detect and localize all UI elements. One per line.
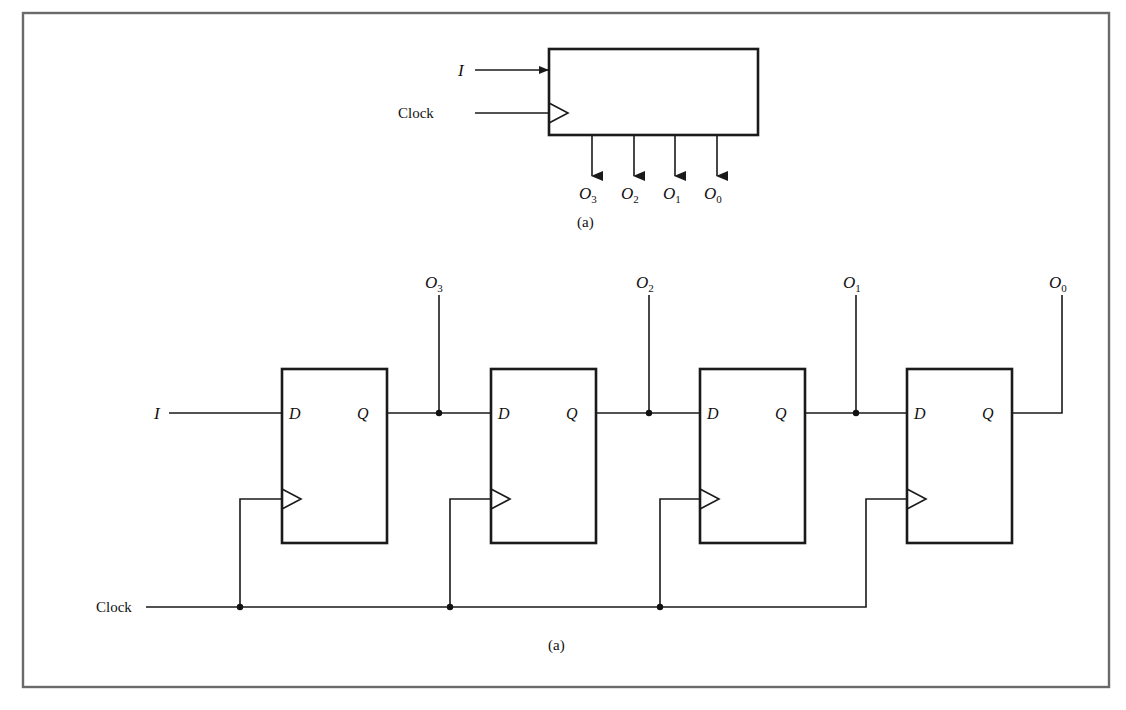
chain-input-label: I	[153, 404, 161, 423]
block-output-label-o2: O2	[621, 184, 639, 205]
clock-tap-ff2	[450, 499, 491, 607]
q-output-label: Q	[357, 405, 369, 422]
d-input-label: D	[913, 405, 926, 422]
flip-flop-chain: I D Q D Q D Q D Q	[96, 273, 1067, 654]
q-output-label: Q	[775, 405, 787, 422]
clock-tap-ff3	[660, 499, 700, 607]
junction-dot	[447, 604, 453, 610]
bottom-caption: (a)	[548, 637, 565, 654]
block-output-label-o0: O0	[704, 184, 722, 205]
flip-flop-box	[907, 369, 1012, 543]
junction-dot	[237, 604, 243, 610]
block-input-label: I	[457, 61, 465, 80]
q-output-label: Q	[566, 405, 578, 422]
q-output-label: Q	[982, 405, 994, 422]
flip-flop-2: D Q	[491, 369, 596, 543]
d-input-label: D	[706, 405, 719, 422]
register-block-box	[549, 49, 758, 135]
d-input-label: D	[288, 405, 301, 422]
chain-clock-label: Clock	[96, 599, 132, 615]
junction-dot	[853, 410, 859, 416]
shift-register-block: I Clock O3 O2 O1 O0 (a)	[398, 49, 758, 231]
flip-flop-box	[491, 369, 596, 543]
shift-register-figure: I Clock O3 O2 O1 O0 (a) I D Q D	[0, 0, 1126, 710]
block-output-label-o3: O3	[579, 184, 597, 205]
block-output-label-o1: O1	[663, 184, 681, 205]
clock-tap-ff1	[240, 499, 282, 607]
chain-output-label-o3: O3	[425, 273, 443, 294]
chain-output-label-o1: O1	[843, 273, 861, 294]
junction-dot	[657, 604, 663, 610]
flip-flop-box	[700, 369, 805, 543]
flip-flop-1: D Q	[282, 369, 387, 543]
chain-output-label-o2: O2	[636, 273, 654, 294]
o0-output-wire	[1012, 295, 1062, 413]
block-clock-label: Clock	[398, 105, 434, 121]
junction-dot	[646, 410, 652, 416]
d-input-label: D	[497, 405, 510, 422]
flip-flop-4: D Q	[907, 369, 1012, 543]
flip-flop-3: D Q	[700, 369, 805, 543]
chain-output-label-o0: O0	[1049, 273, 1067, 294]
top-caption: (a)	[577, 214, 594, 231]
flip-flop-box	[282, 369, 387, 543]
junction-dot	[436, 410, 442, 416]
